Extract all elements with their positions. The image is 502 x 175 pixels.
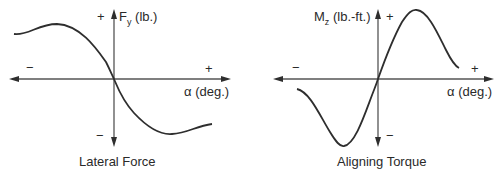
aligning-torque-panel: Mz (lb.-ft.) + − + α (deg.) − Aligning T… — [273, 9, 494, 169]
y-axis-unit: (lb.) — [131, 9, 157, 24]
x-axis-label: α (deg.) — [184, 84, 229, 99]
x-axis-left-arrow-icon — [9, 76, 19, 82]
y-axis-up-arrow-icon — [375, 9, 381, 19]
y-axis-up-arrow-icon — [111, 9, 117, 19]
x-minus-label: − — [292, 60, 300, 75]
y-plus-label: + — [97, 9, 105, 24]
y-axis-label: F — [119, 9, 127, 24]
svg-text:Mz (lb.-ft.): Mz (lb.-ft.) — [314, 9, 371, 27]
x-plus-label: + — [205, 61, 213, 76]
x-plus-label: + — [471, 61, 479, 76]
x-axis-right-arrow-icon — [221, 76, 231, 82]
tire-force-diagram: + Fy (lb.) − + α (deg.) − Lateral Force … — [0, 0, 502, 175]
y-axis-down-arrow-icon — [111, 137, 117, 147]
x-axis-label: α (deg.) — [447, 84, 492, 99]
y-plus-label: + — [386, 9, 394, 24]
y-axis-unit: (lb.-ft.) — [329, 9, 370, 24]
x-axis-right-arrow-icon — [484, 76, 494, 82]
panel-title: Aligning Torque — [337, 154, 426, 169]
x-axis-left-arrow-icon — [273, 76, 283, 82]
panel-title: Lateral Force — [79, 154, 156, 169]
y-minus-label: − — [96, 128, 104, 143]
y-minus-label: − — [386, 128, 394, 143]
lateral-force-panel: + Fy (lb.) − + α (deg.) − Lateral Force — [9, 9, 231, 169]
y-axis-label: M — [314, 9, 325, 24]
x-minus-label: − — [26, 60, 34, 75]
y-axis-down-arrow-icon — [375, 137, 381, 147]
svg-text:Fy (lb.): Fy (lb.) — [119, 9, 157, 27]
